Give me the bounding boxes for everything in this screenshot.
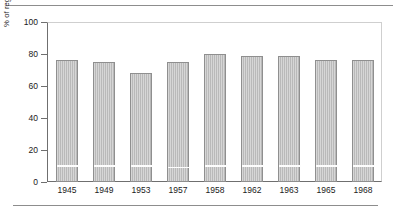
bar[interactable] xyxy=(93,62,115,182)
y-tick-mark xyxy=(41,150,47,151)
bar-segment-divider xyxy=(168,167,190,168)
y-tick-mark xyxy=(41,182,47,183)
bar[interactable] xyxy=(167,62,189,182)
y-tick-label: 100 xyxy=(0,18,38,27)
bar[interactable] xyxy=(204,54,226,182)
bar[interactable] xyxy=(130,73,152,182)
bar-segment-divider xyxy=(131,165,153,166)
bar[interactable] xyxy=(352,60,374,182)
bottom-divider-rule xyxy=(13,205,378,206)
bar-series xyxy=(48,22,382,182)
y-tick-label: 20 xyxy=(0,146,38,155)
y-tick-label: 0 xyxy=(0,178,38,187)
y-tick-mark xyxy=(41,54,47,55)
bar[interactable] xyxy=(278,56,300,182)
y-tick-label: 80 xyxy=(0,50,38,59)
bar-segment-divider xyxy=(316,165,338,166)
bar[interactable] xyxy=(315,60,337,182)
y-tick-mark xyxy=(41,86,47,87)
bar-segment-divider xyxy=(279,165,301,166)
bar-segment-divider xyxy=(94,165,116,166)
bar[interactable] xyxy=(56,60,78,182)
top-divider-rule xyxy=(8,5,393,6)
y-tick-mark xyxy=(41,22,47,23)
bar-segment-divider xyxy=(205,165,227,166)
bar-segment-divider xyxy=(57,165,79,166)
y-tick-label: 60 xyxy=(0,82,38,91)
y-tick-label: 40 xyxy=(0,114,38,123)
bar[interactable] xyxy=(241,56,263,182)
bar-segment-divider xyxy=(242,165,264,166)
x-tick-label: 1968 xyxy=(341,186,385,195)
bar-segment-divider xyxy=(353,165,375,166)
y-tick-mark xyxy=(41,118,47,119)
figure: % of registered voters who voted 0204060… xyxy=(0,0,400,214)
